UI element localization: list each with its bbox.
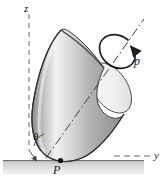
spin-rate-label: p [134, 55, 140, 67]
cone-rolling-figure: z y P θ p [0, 0, 167, 181]
figure-canvas [0, 0, 167, 181]
contact-point-label: P [53, 164, 60, 176]
cone-body [32, 29, 140, 161]
y-axis-label: y [154, 150, 159, 161]
z-axis-label: z [24, 3, 28, 14]
theta-angle-label: θ [33, 131, 38, 142]
